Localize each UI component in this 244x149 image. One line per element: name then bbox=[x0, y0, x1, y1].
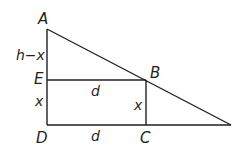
vertex-label-C: C bbox=[140, 129, 151, 147]
vertex-label-E: E bbox=[34, 70, 44, 88]
segment-label-ED: x bbox=[34, 93, 44, 109]
vertex-label-B: B bbox=[150, 64, 160, 82]
segment-label-BC: x bbox=[133, 97, 143, 113]
geometry-diagram: A B C D E h−x x d x d bbox=[0, 0, 244, 149]
vertex-label-A: A bbox=[37, 10, 48, 28]
vertex-label-D: D bbox=[36, 129, 48, 147]
segment-label-EB: d bbox=[91, 83, 100, 99]
segment-label-DC: d bbox=[91, 128, 100, 144]
segment-label-AE: h−x bbox=[16, 47, 46, 63]
